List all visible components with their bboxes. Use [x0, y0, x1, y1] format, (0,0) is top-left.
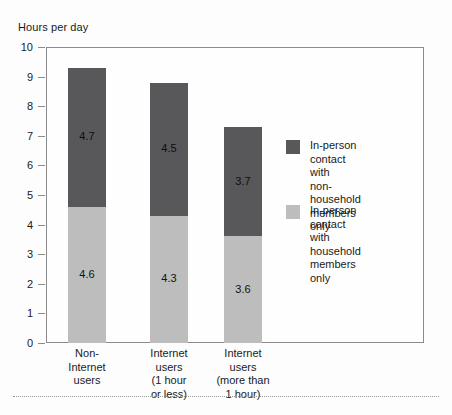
legend-item: In-person contact with household members… — [286, 204, 361, 285]
bar-value-label: 4.3 — [150, 272, 188, 284]
bar-value-label: 4.7 — [68, 130, 106, 142]
y-tick-mark — [38, 165, 45, 166]
y-tick-mark — [38, 254, 45, 255]
y-tick-mark — [38, 313, 45, 314]
bars-layer: 4.74.64.54.33.73.6 — [46, 47, 424, 343]
y-axis: 109876543210 — [0, 47, 46, 343]
chart-figure: Hours per day 109876543210 4.74.64.54.33… — [0, 0, 452, 415]
y-tick-mark — [38, 136, 45, 137]
bar-value-label: 4.5 — [150, 142, 188, 154]
y-tick-label: 8 — [27, 98, 33, 114]
legend-swatch-icon — [286, 140, 300, 154]
x-axis-categories: Non- Internet usersInternet users (1 hou… — [46, 347, 424, 407]
bar-segment-non-household: 4.5 — [150, 83, 188, 216]
y-tick-mark — [38, 47, 45, 48]
x-axis-label: Internet users (more than 1 hour) — [198, 347, 288, 401]
y-tick-mark — [38, 343, 45, 344]
y-tick-label: 4 — [27, 217, 33, 233]
y-tick-label: 10 — [21, 39, 33, 55]
bar-segment-non-household: 3.7 — [224, 127, 262, 237]
y-tick-mark — [38, 106, 45, 107]
y-tick-mark — [38, 195, 45, 196]
y-tick-label: 1 — [27, 305, 33, 321]
y-tick-label: 0 — [27, 335, 33, 351]
y-tick-label: 3 — [27, 246, 33, 262]
legend-label: In-person contact with household members… — [310, 204, 361, 285]
x-axis-label: Non- Internet users — [42, 347, 132, 388]
y-tick-mark — [38, 77, 45, 78]
bar-segment-household: 3.6 — [224, 236, 262, 343]
y-tick-label: 6 — [27, 157, 33, 173]
y-tick-mark — [38, 284, 45, 285]
y-axis-title: Hours per day — [18, 21, 88, 33]
bar-segment-household: 4.6 — [68, 207, 106, 343]
bar-value-label: 3.7 — [224, 175, 262, 187]
bar-stack: 3.73.6 — [224, 127, 262, 343]
bar-stack: 4.54.3 — [150, 83, 188, 343]
legend-swatch-icon — [286, 205, 300, 219]
bar-stack: 4.74.6 — [68, 68, 106, 343]
y-tick-label: 2 — [27, 276, 33, 292]
y-tick-mark — [38, 225, 45, 226]
bar-segment-household: 4.3 — [150, 216, 188, 343]
bar-segment-non-household: 4.7 — [68, 68, 106, 207]
y-tick-label: 5 — [27, 187, 33, 203]
bar-value-label: 4.6 — [68, 268, 106, 280]
bottom-divider — [13, 396, 439, 397]
y-tick-label: 7 — [27, 128, 33, 144]
y-tick-label: 9 — [27, 69, 33, 85]
bar-value-label: 3.6 — [224, 283, 262, 295]
